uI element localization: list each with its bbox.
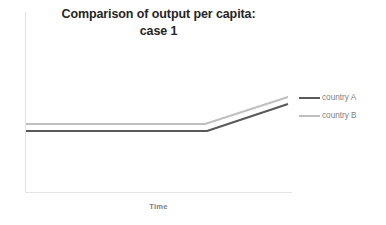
legend-label-country-a: country A: [322, 93, 356, 103]
legend-swatch-country-b: [299, 115, 320, 117]
series-line-country-b: [26, 97, 288, 124]
chart-legend: country A country B: [299, 89, 385, 125]
legend-item-country-b: country B: [299, 107, 385, 125]
legend-swatch-country-a: [299, 97, 320, 99]
x-axis-title: Time: [25, 202, 292, 211]
chart-container: Comparison of output per capita: case 1 …: [0, 0, 386, 225]
series-line-country-a: [26, 104, 288, 131]
legend-label-country-b: country B: [322, 111, 357, 121]
legend-item-country-a: country A: [299, 89, 385, 107]
